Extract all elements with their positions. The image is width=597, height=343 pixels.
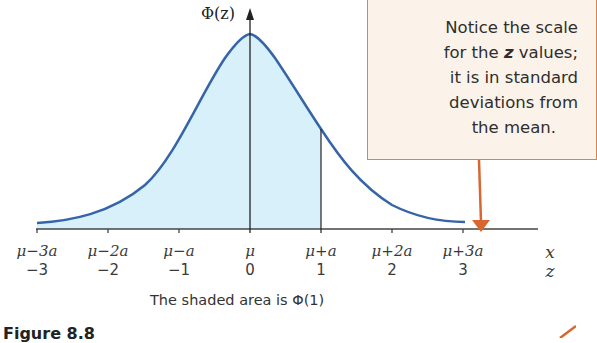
z-tick-label: 0: [220, 261, 280, 279]
note-line: the mean.: [368, 115, 578, 140]
note-box: Notice the scale for the z values; it is…: [367, 0, 597, 160]
note-line: Notice the scale: [368, 15, 578, 40]
z-tick-label: 3: [433, 261, 493, 279]
x-tick-label: μ+2a: [362, 242, 422, 260]
y-axis-arrow-icon: [246, 8, 254, 20]
y-axis-label: Φ(z): [201, 4, 235, 23]
x-tick-label: μ−3a: [7, 242, 67, 260]
x-tick-label: μ−2a: [78, 242, 138, 260]
z-tick-label: −2: [78, 261, 138, 279]
x-tick-label: μ+3a: [433, 242, 493, 260]
z-tick-label: 1: [291, 261, 351, 279]
z-tick-label: −3: [7, 261, 67, 279]
figure-label: Figure 8.8: [3, 324, 95, 343]
arrow-head-icon: [472, 220, 490, 232]
x-variable-label: x: [520, 242, 580, 262]
x-tick-label: μ−a: [149, 242, 209, 260]
note-text: Notice the scale for the z values; it is…: [368, 15, 578, 140]
note-line: deviations from: [368, 90, 578, 115]
z-tick-label: 2: [362, 261, 422, 279]
decorative-stroke: [560, 326, 576, 338]
note-line: for the z values;: [368, 40, 578, 65]
note-arrow: [479, 160, 481, 222]
note-line: it is in standard: [368, 65, 578, 90]
x-tick-label: μ: [220, 242, 280, 260]
caption: The shaded area is Φ(1): [150, 292, 324, 308]
z-tick-label: −1: [149, 261, 209, 279]
x-tick-label: μ+a: [291, 242, 351, 260]
z-variable-label: z: [520, 261, 580, 281]
